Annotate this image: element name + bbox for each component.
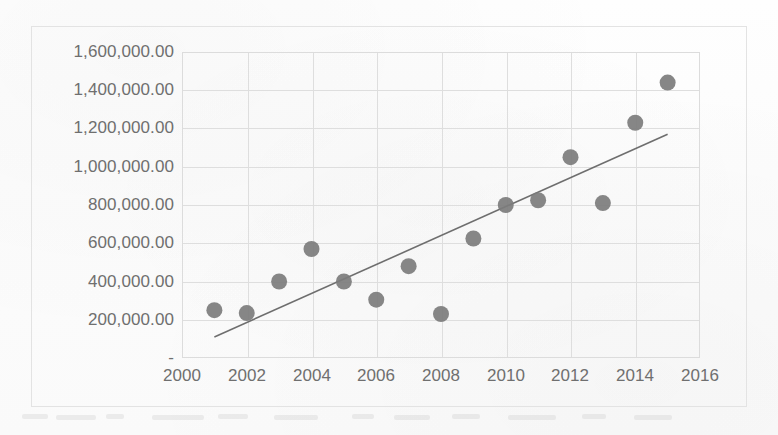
gridline-horizontal	[183, 167, 699, 168]
gridline-vertical	[313, 53, 314, 357]
x-tick-label-2000: 2000	[163, 366, 201, 386]
gridline-vertical	[377, 53, 378, 357]
y-tick-label-800000: 800,000.00	[88, 195, 174, 215]
plot-area	[182, 52, 700, 358]
y-axis-tick-labels: 1,600,000.00 1,400,000.00 1,200,000.00 1…	[0, 0, 174, 435]
x-tick-label-2010: 2010	[487, 366, 525, 386]
x-tick-label-2006: 2006	[357, 366, 395, 386]
y-tick-label-1000000: 1,000,000.00	[74, 157, 174, 177]
x-tick-label-2008: 2008	[422, 366, 460, 386]
y-tick-label-400000: 400,000.00	[88, 272, 174, 292]
x-tick-label-2014: 2014	[616, 366, 654, 386]
chart-screenshot: 1,600,000.00 1,400,000.00 1,200,000.00 1…	[0, 0, 778, 435]
y-tick-label-600000: 600,000.00	[88, 233, 174, 253]
x-tick-label-2016: 2016	[681, 366, 719, 386]
x-tick-label-2004: 2004	[293, 366, 331, 386]
y-tick-label-1200000: 1,200,000.00	[74, 118, 174, 138]
x-tick-label-2002: 2002	[228, 366, 266, 386]
gridline-horizontal	[183, 282, 699, 283]
gridline-vertical	[571, 53, 572, 357]
x-tick-label-2012: 2012	[551, 366, 589, 386]
gridline-horizontal	[183, 128, 699, 129]
gridline-vertical	[248, 53, 249, 357]
y-tick-label-200000: 200,000.00	[88, 310, 174, 330]
y-tick-label-1600000: 1,600,000.00	[74, 42, 174, 62]
gridline-horizontal	[183, 320, 699, 321]
gridline-vertical	[507, 53, 508, 357]
gridline-horizontal	[183, 205, 699, 206]
gridline-vertical	[442, 53, 443, 357]
gridline-vertical	[636, 53, 637, 357]
gridline-horizontal	[183, 243, 699, 244]
y-tick-label-1400000: 1,400,000.00	[74, 80, 174, 100]
gridline-horizontal	[183, 90, 699, 91]
y-tick-label-zero: -	[168, 348, 174, 368]
